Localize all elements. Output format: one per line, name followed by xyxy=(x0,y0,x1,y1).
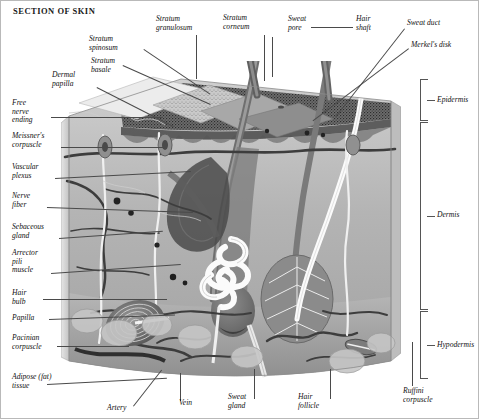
leader-sweat-gland xyxy=(254,369,255,399)
label-hair-follicle: Hair follicle xyxy=(298,393,319,410)
label-stratum-basale: Stratum basale xyxy=(91,57,115,74)
label-hair-bulb: Hair bulb xyxy=(12,289,26,306)
label-vascular-plexus: Vascular plexus xyxy=(12,163,39,180)
label-meissners-corpuscle: Meissner's corpuscle xyxy=(12,132,44,149)
leader-sweat-pore xyxy=(272,37,273,77)
label-adipose-tissue: Adipose (fat) tissue xyxy=(12,373,51,390)
label-merkels-disk: Merkel's disk xyxy=(411,41,451,50)
leader-hair-bulb xyxy=(43,299,167,300)
label-nerve-fiber: Nerve fiber xyxy=(12,192,30,209)
label-sweat-duct: Sweat duct xyxy=(407,19,440,28)
label-vein: Vein xyxy=(179,399,192,408)
label-artery: Artery xyxy=(107,404,126,413)
leader-stratum-corneum xyxy=(264,35,265,81)
label-hair-shaft: Hair shaft xyxy=(356,15,371,32)
label-stratum-spinosum: Stratum spinosum xyxy=(89,35,118,52)
skin-block-illustration xyxy=(61,61,401,391)
label-stratum-granulosum: Stratum granulosum xyxy=(156,15,192,32)
bracket-tick-epidermis xyxy=(427,100,435,101)
label-sweat-pore: Sweat pore xyxy=(288,15,306,32)
bracket-dermis xyxy=(420,122,428,310)
label-stratum-corneum: Stratum corneum xyxy=(223,14,250,31)
bracket-tick-dermis xyxy=(427,216,435,217)
leader-hair-follicle xyxy=(330,369,331,399)
bracket-label-epidermis: Epidermis xyxy=(437,95,468,104)
leader-meissners-corpuscle xyxy=(61,147,167,148)
bracket-hypodermis xyxy=(420,311,428,379)
label-free-nerve-ending: Free nerve ending xyxy=(12,99,33,125)
leader-hair-shaft xyxy=(311,27,353,28)
leader-free-nerve-ending xyxy=(51,117,163,118)
label-papilla: Papilla xyxy=(12,314,34,323)
label-arrector-pili-muscle: Arrector pili muscle xyxy=(12,249,38,275)
leader-vein xyxy=(180,373,181,401)
label-ruffini-corpuscle: Ruffini corpuscle xyxy=(403,387,433,404)
bracket-epidermis xyxy=(420,79,428,121)
label-sweat-gland: Sweat gland xyxy=(228,393,246,410)
leader-pacinian-corpuscle xyxy=(57,346,129,347)
bracket-tick-hypodermis xyxy=(427,345,435,346)
bracket-label-dermis: Dermis xyxy=(437,210,459,219)
leader-ruffini-corpuscle xyxy=(412,342,413,386)
skin-section-plate: SECTION OF SKIN xyxy=(0,0,479,419)
leader-stratum-granulosum xyxy=(196,35,197,79)
bracket-label-hypodermis: Hypodermis xyxy=(437,340,474,349)
label-dermal-papilla: Dermal papilla xyxy=(52,71,75,88)
label-sebaceous-gland: Sebaceous gland xyxy=(12,223,44,240)
label-pacinian-corpuscle: Pacinian corpuscle xyxy=(12,334,42,351)
page-title: SECTION OF SKIN xyxy=(13,6,95,16)
